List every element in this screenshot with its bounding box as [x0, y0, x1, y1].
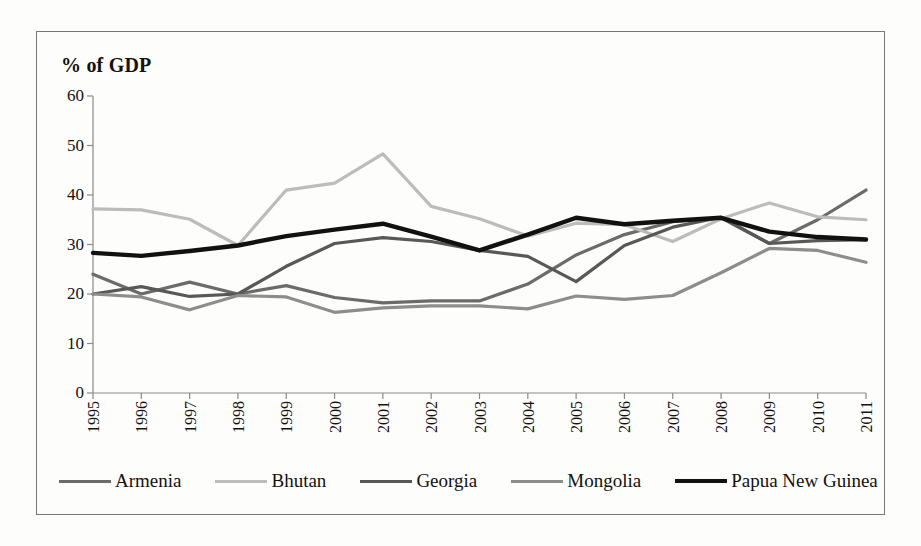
x-tick-label: 2004 — [520, 401, 538, 433]
x-tick-label: 2008 — [713, 401, 731, 433]
legend-item-label: Papua New Guinea — [731, 470, 878, 492]
y-tick-label: 30 — [67, 235, 84, 255]
x-tick-label: 2007 — [665, 401, 683, 433]
x-tick-label: 1999 — [278, 401, 296, 433]
x-tick-label: 2002 — [423, 401, 441, 433]
y-tick-label: 60 — [67, 86, 84, 106]
legend-item-papua-new-guinea[interactable]: Papua New Guinea — [675, 470, 878, 492]
chart-legend: ArmeniaBhutanGeorgiaMongoliaPapua New Gu… — [59, 470, 864, 492]
x-tick-label: 1996 — [133, 401, 151, 433]
x-tick-label: 2003 — [472, 401, 490, 433]
x-tick-label: 2009 — [761, 401, 779, 433]
y-tick-label: 0 — [76, 383, 85, 403]
y-tick-label: 20 — [67, 284, 84, 304]
x-tick-label: 2006 — [616, 401, 634, 433]
x-tick-label: 2011 — [858, 401, 876, 432]
x-tick-label: 2000 — [327, 401, 345, 433]
y-tick-label: 10 — [67, 334, 84, 354]
chart-figure-frame: % of GDP 0102030405060 19951996199719981… — [36, 31, 885, 515]
y-axis-title: % of GDP — [61, 54, 151, 77]
x-tick-label: 1998 — [230, 401, 248, 433]
series-line-papua-new-guinea — [93, 218, 866, 256]
legend-item-bhutan[interactable]: Bhutan — [215, 470, 326, 492]
legend-item-label: Mongolia — [567, 470, 641, 492]
legend-item-label: Armenia — [115, 470, 181, 492]
plot-area: 0102030405060 19951996199719981999200020… — [93, 96, 866, 393]
legend-item-armenia[interactable]: Armenia — [59, 470, 181, 492]
legend-line-swatch-icon — [59, 480, 111, 483]
legend-line-swatch-icon — [360, 480, 412, 483]
y-tick-label: 50 — [67, 136, 84, 156]
legend-item-label: Georgia — [416, 470, 477, 492]
legend-item-mongolia[interactable]: Mongolia — [511, 470, 641, 492]
series-line-mongolia — [93, 248, 866, 312]
x-tick-label: 1997 — [182, 401, 200, 433]
x-tick-label: 1995 — [85, 401, 103, 433]
y-tick-label: 40 — [67, 185, 84, 205]
x-tick-label: 2010 — [810, 401, 828, 433]
x-tick-label: 2005 — [568, 401, 586, 433]
series-group — [93, 154, 866, 312]
legend-line-swatch-icon — [215, 480, 267, 483]
x-tick-label: 2001 — [375, 401, 393, 433]
legend-line-swatch-icon — [675, 479, 727, 483]
legend-line-swatch-icon — [511, 480, 563, 483]
chart-canvas — [93, 96, 866, 393]
legend-item-label: Bhutan — [271, 470, 326, 492]
legend-item-georgia[interactable]: Georgia — [360, 470, 477, 492]
series-line-armenia — [93, 190, 866, 303]
